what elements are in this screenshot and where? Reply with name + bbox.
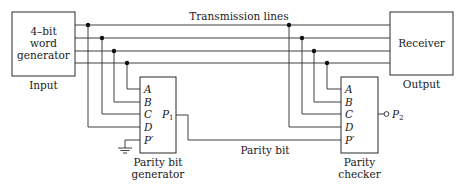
junction-dot [86, 23, 90, 27]
chk-pin-D: D [344, 121, 354, 133]
parity-checker-block: A B C D P′ P2 Parity checker [338, 77, 403, 180]
transmission-lines-label: Transmission lines [189, 10, 288, 22]
junction-dot [100, 36, 104, 40]
junction-dot [112, 49, 116, 53]
receiver-block: Receiver Output [390, 12, 453, 90]
tap-line4-to-gen-A [127, 63, 140, 89]
word-generator-label-line2: word [30, 37, 57, 49]
chk-pin-B: B [344, 96, 353, 108]
parity-generator-caption-line2: generator [132, 168, 186, 180]
parity-generator-caption-line1: Parity bit [133, 156, 183, 168]
junction-dot [300, 36, 304, 40]
receiver-label: Receiver [398, 37, 446, 49]
parity-bit-line [176, 115, 341, 140]
tap-line3-to-chk-B [314, 51, 341, 102]
tap-line4-to-chk-A [327, 63, 341, 89]
chk-pin-A: A [344, 83, 353, 95]
junction-dot [125, 61, 129, 65]
parity-bit-label: Parity bit [240, 144, 290, 156]
gen-output-sub: 1 [169, 114, 173, 122]
chk-pin-C: C [345, 108, 353, 120]
junction-dot [325, 61, 329, 65]
tap-line2-to-chk-C [302, 38, 341, 114]
gen-pin-A: A [143, 83, 152, 95]
chk-output-P2: P2 [391, 108, 404, 122]
output-terminal-icon [384, 112, 389, 117]
word-generator-label-line3: generator [17, 49, 71, 61]
gen-pin-D: D [143, 121, 153, 133]
parity-checker-caption-line1: Parity [344, 156, 375, 168]
gen-pin-Pprime: P′ [143, 134, 154, 146]
junction-dot [312, 49, 316, 53]
tap-line2-to-gen-C [102, 38, 140, 114]
parity-transmission-diagram: Transmission lines 4–bit word generator … [0, 0, 463, 191]
junction-dot [287, 23, 291, 27]
word-generator-label-line1: 4–bit [30, 25, 57, 37]
ground-icon [118, 140, 140, 153]
chk-pin-Pprime: P′ [344, 134, 355, 146]
output-caption: Output [403, 78, 441, 90]
gen-pin-C: C [144, 108, 152, 120]
word-generator-block: 4–bit word generator Input [12, 12, 75, 91]
gen-pin-B: B [143, 96, 152, 108]
transmission-lines [75, 25, 390, 63]
tap-line1-to-chk-D [289, 25, 341, 127]
parity-generator-block: A B C D P′ P1 Parity bit generator [132, 77, 186, 180]
parity-checker-caption-line2: checker [338, 168, 381, 180]
chk-output-sub: 2 [399, 114, 403, 122]
input-caption: Input [29, 79, 58, 91]
